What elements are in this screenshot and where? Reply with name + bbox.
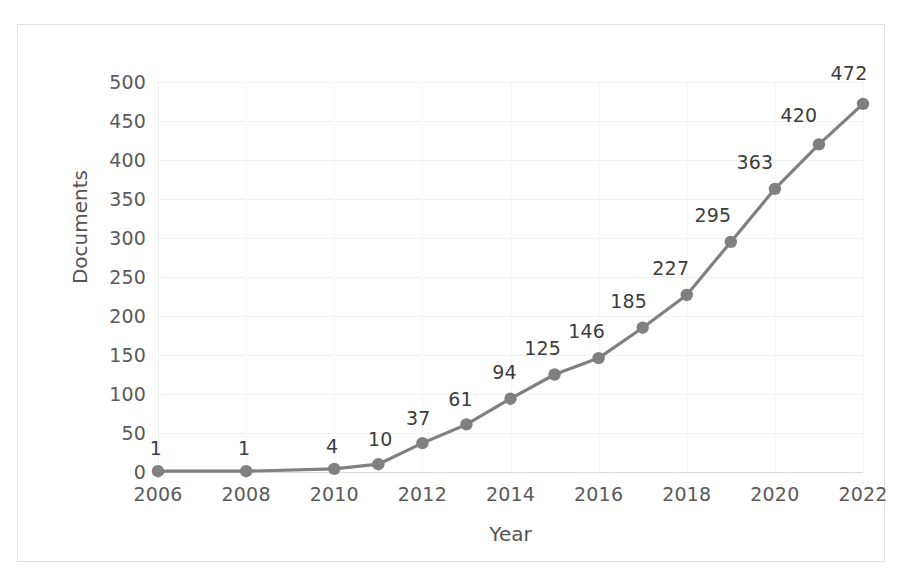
data-point-marker — [504, 392, 516, 404]
y-axis-tick-label: 350 — [109, 188, 146, 210]
y-axis-tick-label: 0 — [134, 461, 146, 483]
data-point-marker — [769, 183, 781, 195]
gridline-vertical — [863, 82, 864, 472]
data-point-label: 185 — [610, 290, 647, 312]
y-axis-tick-label: 50 — [121, 422, 146, 444]
data-point-marker — [372, 458, 384, 470]
data-point-label: 61 — [448, 388, 473, 410]
data-point-marker — [725, 236, 737, 248]
data-point-marker — [813, 138, 825, 150]
x-axis-tick-label: 2012 — [398, 483, 447, 505]
data-point-marker — [681, 289, 693, 301]
x-axis-tick-label: 2008 — [222, 483, 271, 505]
y-axis-tick-label: 250 — [109, 266, 146, 288]
y-axis-tick-label: 500 — [109, 71, 146, 93]
y-axis-tick-label: 150 — [109, 344, 146, 366]
plot-area: 11410376194125146185227295363420472 — [158, 82, 863, 472]
y-axis-tick-label: 300 — [109, 227, 146, 249]
data-point-marker — [328, 463, 340, 475]
data-point-marker — [592, 352, 604, 364]
data-point-marker — [152, 465, 164, 477]
x-axis-tick-label: 2014 — [486, 483, 535, 505]
data-point-label: 37 — [406, 407, 431, 429]
data-point-label: 4 — [326, 435, 338, 457]
data-point-marker — [548, 368, 560, 380]
y-axis-tick-label: 100 — [109, 383, 146, 405]
line-series-documents — [158, 82, 863, 472]
x-axis-tick-label: 2022 — [838, 483, 887, 505]
data-point-label: 1 — [238, 437, 250, 459]
y-axis-tick-label: 200 — [109, 305, 146, 327]
figure-frame: 500450400350300250200150100500 114103761… — [17, 24, 885, 562]
x-axis-tick-label: 2020 — [750, 483, 799, 505]
y-axis-tick-label: 450 — [109, 110, 146, 132]
data-point-marker — [460, 418, 472, 430]
x-axis-tick-label: 2018 — [662, 483, 711, 505]
data-point-marker — [416, 437, 428, 449]
data-point-label: 420 — [781, 104, 818, 126]
x-axis-title: Year — [158, 522, 863, 546]
data-point-label: 10 — [368, 428, 393, 450]
x-axis-tick-label: 2016 — [574, 483, 623, 505]
data-point-label: 125 — [524, 337, 561, 359]
y-axis-title: Documents — [68, 147, 92, 307]
data-point-label: 363 — [736, 151, 773, 173]
data-point-marker — [857, 98, 869, 110]
chart-screenshot: 500450400350300250200150100500 114103761… — [0, 0, 907, 588]
x-axis-tick-label: 2006 — [133, 483, 182, 505]
data-point-label: 295 — [694, 204, 731, 226]
data-point-marker — [240, 465, 252, 477]
data-point-label: 227 — [652, 257, 689, 279]
x-axis-tick-labels: 200620082010201220142016201820202022 — [158, 483, 863, 513]
data-point-label: 146 — [568, 320, 605, 342]
data-point-label: 1 — [150, 437, 162, 459]
data-point-label: 472 — [831, 62, 868, 84]
y-axis-tick-label: 400 — [109, 149, 146, 171]
data-point-label: 94 — [492, 361, 517, 383]
x-axis-tick-label: 2010 — [310, 483, 359, 505]
data-point-marker — [636, 322, 648, 334]
